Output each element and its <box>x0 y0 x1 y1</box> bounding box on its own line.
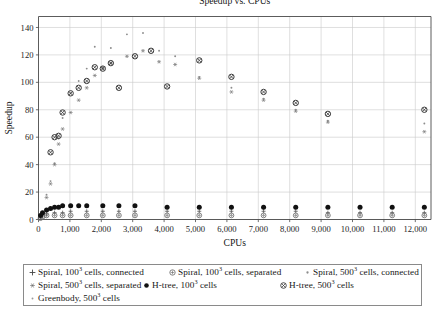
legend-entry-label: H-tree, 1003 cells <box>152 281 217 290</box>
data-point <box>46 194 48 196</box>
legend-entry-label: Greenbody, 5003 cells <box>38 294 120 303</box>
data-point <box>197 205 202 210</box>
x-tick-label: 4,000 <box>154 224 173 234</box>
legend-entry-label: H-tree, 5003 cells <box>289 281 354 290</box>
tiny-dot-marker-icon <box>27 294 38 303</box>
data-point <box>165 205 170 210</box>
x-tick-label: 3,000 <box>123 224 142 234</box>
legend-grid: Spiral, 1003 cells, connectedSpiral, 100… <box>24 265 421 305</box>
data-point <box>76 85 81 90</box>
data-point <box>327 215 329 217</box>
data-point <box>295 215 297 217</box>
data-point <box>174 55 176 57</box>
data-point <box>69 111 73 114</box>
data-point <box>157 60 161 63</box>
data-point <box>84 78 89 83</box>
scatter-plot-figure: 01,0002,0003,0004,0005,0006,0007,0008,00… <box>0 0 444 258</box>
data-point <box>110 47 112 49</box>
data-point <box>198 215 200 217</box>
data-point <box>57 142 61 145</box>
data-point <box>48 150 53 155</box>
x-axis-ticks: 01,0002,0003,0004,0005,0006,0007,0008,00… <box>36 220 427 234</box>
circle-cross-marker-icon <box>278 281 289 290</box>
plus-marker-icon <box>27 268 38 277</box>
data-point <box>230 87 232 89</box>
x-tick-label: 12,000 <box>403 224 427 234</box>
x-tick-label: 11,000 <box>372 224 395 234</box>
data-point <box>164 84 169 89</box>
legend-entry-label: Spiral, 1003 cells, separated <box>178 268 281 277</box>
x-tick-label: 5,000 <box>186 224 205 234</box>
data-point <box>134 215 136 217</box>
y-axis-ticks: 020406080100120140 <box>21 23 39 225</box>
legend-entry-4[interactable]: H-tree, 1003 cells <box>141 281 217 290</box>
x-tick-label: 0 <box>36 224 40 234</box>
data-point <box>45 196 49 199</box>
data-point <box>293 205 298 210</box>
legend-entry-2[interactable]: Spiral, 5003 cells, connected <box>302 268 419 277</box>
data-point <box>61 127 65 130</box>
plot-canvas: 01,0002,0003,0004,0005,0006,0007,0008,00… <box>0 0 444 258</box>
data-point <box>229 74 234 79</box>
data-point <box>116 203 121 208</box>
data-point <box>390 205 395 210</box>
y-tick-label: 80 <box>25 105 34 115</box>
x-tick-label: 2,000 <box>92 224 111 234</box>
y-tick-label: 0 <box>29 215 33 225</box>
star-marker-icon <box>27 281 38 290</box>
data-point <box>93 74 97 77</box>
data-point <box>60 203 65 208</box>
x-tick-label: 8,000 <box>280 224 299 234</box>
legend-entry-3[interactable]: Spiral, 5003 cells, separated <box>27 281 141 290</box>
data-point <box>85 86 89 89</box>
data-point <box>102 215 104 217</box>
data-point <box>46 216 48 218</box>
data-point <box>116 85 121 90</box>
data-point <box>231 215 233 217</box>
data-point <box>49 182 53 185</box>
data-point <box>325 205 330 210</box>
data-point <box>263 215 265 217</box>
legend-entry-6[interactable]: Greenbody, 5003 cells <box>27 294 120 303</box>
series-5 <box>48 48 427 155</box>
legend-entry-label: Spiral, 5003 cells, connected <box>313 268 419 277</box>
chart-title: Speedup vs. CPUs <box>199 0 270 6</box>
y-tick-label: 100 <box>21 77 34 87</box>
data-point <box>86 68 88 70</box>
data-point <box>92 65 97 70</box>
data-point <box>94 46 96 48</box>
series-2 <box>46 32 426 196</box>
y-tick-label: 20 <box>25 187 34 197</box>
series-6 <box>46 215 425 218</box>
legend-entry-1[interactable]: Spiral, 1003 cells, separated <box>167 268 281 277</box>
data-point <box>86 215 88 217</box>
axes <box>39 17 432 220</box>
data-point <box>100 203 105 208</box>
data-point <box>70 215 72 217</box>
data-point <box>325 111 330 116</box>
data-point <box>229 90 233 93</box>
gridlines <box>39 17 432 220</box>
legend-entry-5[interactable]: H-tree, 5003 cells <box>278 281 354 290</box>
data-point <box>78 80 80 82</box>
data-point <box>84 203 89 208</box>
y-tick-label: 120 <box>21 50 34 60</box>
legend-entry-label: Spiral, 5003 cells, separated <box>38 281 141 290</box>
legend-entry-0[interactable]: Spiral, 1003 cells, connected <box>27 268 144 277</box>
data-point <box>261 89 266 94</box>
data-point <box>132 203 137 208</box>
data-point <box>197 58 202 63</box>
x-tick-label: 9,000 <box>311 224 330 234</box>
data-point <box>148 48 153 53</box>
data-point <box>62 117 64 119</box>
x-tick-label: 10,000 <box>341 224 365 234</box>
data-point <box>293 100 298 105</box>
data-point <box>142 32 144 34</box>
legend-entry-label: Spiral, 1003 cells, connected <box>38 268 144 277</box>
data-point <box>359 215 361 217</box>
x-tick-label: 1,000 <box>60 224 79 234</box>
data-point <box>118 215 120 217</box>
x-tick-label: 6,000 <box>217 224 236 234</box>
data-point <box>422 205 427 210</box>
data-point <box>358 205 363 210</box>
